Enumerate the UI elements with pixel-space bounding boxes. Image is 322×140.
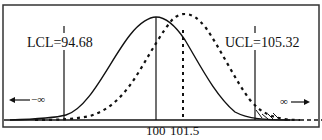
right-arrow-icon	[304, 99, 310, 105]
in-control-curve	[10, 17, 290, 120]
left-arrow-icon	[9, 97, 15, 103]
x-tick-100: 100	[146, 124, 166, 137]
control-chart-diagram	[0, 0, 322, 140]
lcl-label: LCL=94.68	[27, 36, 93, 50]
left-infinity-label: −∞	[31, 94, 45, 105]
x-tick-101.5: 101.5	[170, 124, 199, 137]
shifted-curve	[35, 14, 300, 120]
ucl-label: UCL=105.32	[225, 36, 299, 50]
diagram-frame	[3, 5, 319, 127]
right-infinity-label: ∞	[280, 96, 288, 107]
